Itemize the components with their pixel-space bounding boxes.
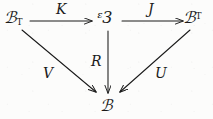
object-node-c-superscript-t: ℬT xyxy=(183,10,202,26)
object-symbol-script-x: ᵋ3 xyxy=(96,8,112,27)
object-node-x: ᵋ3 xyxy=(96,10,112,26)
arrow-label-u: U xyxy=(155,66,167,80)
object-node-ct: ℬT xyxy=(4,10,23,27)
arrow-label-j: J xyxy=(148,2,154,16)
object-subscript-t: T xyxy=(17,17,23,27)
object-superscript-t: T xyxy=(196,11,202,21)
arrow-v xyxy=(22,30,96,92)
object-symbol-script-c: ℬ xyxy=(100,96,113,115)
object-symbol-script-c: ℬ xyxy=(4,8,17,27)
arrow-u xyxy=(120,30,190,92)
arrow-label-r: R xyxy=(91,54,102,68)
object-node-c: ℬ xyxy=(100,98,113,114)
commutative-diagram: ℬT ᵋ3 ℬT ℬ K J R V U xyxy=(0,0,213,119)
arrow-label-v: V xyxy=(43,66,53,80)
object-symbol-script-c: ℬ xyxy=(183,8,196,27)
arrow-label-k: K xyxy=(56,2,66,16)
